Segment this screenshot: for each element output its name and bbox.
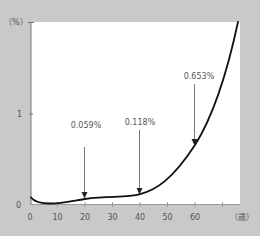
x-tick-label-50: 50 (162, 213, 172, 222)
annotation-label-20: 0.059% (71, 121, 102, 130)
annotation-label-40: 0.118% (125, 118, 156, 127)
x-tick-label-30: 30 (107, 213, 117, 222)
y-tick-label-1: 1 (17, 110, 22, 119)
y-tick-label-0: 0 (16, 201, 21, 210)
plot-area (31, 22, 240, 205)
x-tick-label-40: 40 (135, 213, 145, 222)
x-tick-label-0: 0 (27, 213, 32, 222)
x-tick-label-60: 60 (190, 213, 200, 222)
annotation-label-60: 0.653% (184, 72, 215, 81)
line-chart: （%） 1 0 0 10 20 30 40 50 60 （歳） 0.059% 0… (0, 0, 260, 236)
y-axis-unit: （%） (4, 18, 28, 27)
x-tick-label-20: 20 (80, 213, 90, 222)
x-axis-unit: （歳） (230, 212, 254, 222)
x-tick-label-10: 10 (52, 213, 62, 222)
